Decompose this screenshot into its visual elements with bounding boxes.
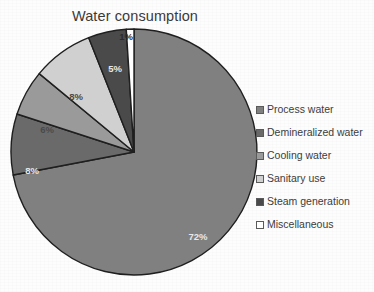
legend-item[interactable]: Process water [256,98,374,121]
legend-item-label: Steam generation [267,196,350,207]
slice-value-label: 5% [108,63,122,74]
legend-item-label: Sanitary use [267,173,325,184]
legend-item-label: Cooling water [267,150,331,161]
pie-svg: 1%5%8%6%8%72% [8,26,260,280]
pie-plot-area: 1%5%8%6%8%72% [8,26,260,280]
legend-swatch-icon [256,221,264,229]
slice-value-label: 6% [40,124,54,135]
chart-title: Water consumption [0,8,270,24]
legend-swatch-icon [256,198,264,206]
legend-item[interactable]: Miscellaneous [256,213,374,236]
pie-slices-group [11,29,257,275]
legend-item[interactable]: Sanitary use [256,167,374,190]
legend-swatch-icon [256,106,264,114]
legend-item-label: Process water [267,104,334,115]
legend-item-label: Miscellaneous [267,219,334,230]
legend-swatch-icon [256,129,264,137]
legend-swatch-icon [256,175,264,183]
legend-item-label: Demineralized water [267,127,363,138]
slice-value-label: 8% [69,91,83,102]
legend-swatch-icon [256,152,264,160]
legend-item[interactable]: Cooling water [256,144,374,167]
legend-item[interactable]: Demineralized water [256,121,374,144]
slice-value-label: 1% [119,31,133,42]
pie-chart-figure: Water consumption 1%5%8%6%8%72% Process … [0,0,374,292]
legend: Process waterDemineralized waterCooling … [256,98,374,236]
slice-value-label: 8% [25,165,39,176]
slice-value-label: 72% [188,231,208,242]
legend-item[interactable]: Steam generation [256,190,374,213]
